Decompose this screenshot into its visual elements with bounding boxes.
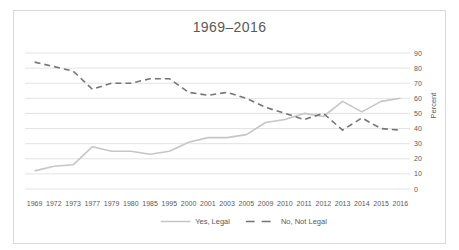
x-tick-label: 2010 xyxy=(277,200,293,207)
series-line-no-not-legal xyxy=(35,62,401,130)
gridlines xyxy=(25,53,410,189)
dashed-line-swatch-icon xyxy=(246,219,276,224)
x-tick-label: 2013 xyxy=(335,200,351,207)
x-tick-label: 1979 xyxy=(104,200,120,207)
legend: Yes, Legal No, Not Legal xyxy=(160,217,327,226)
y-tick-label: 90 xyxy=(414,50,422,57)
x-tick-label: 1995 xyxy=(162,200,178,207)
y-tick-label: 0 xyxy=(414,186,418,193)
y-tick-label: 20 xyxy=(414,155,422,162)
y-tick-label: 50 xyxy=(414,110,422,117)
y-tick-label: 40 xyxy=(414,125,422,132)
chart-container: 0102030405060708090196919721973197719791… xyxy=(13,10,446,244)
chart-title: 1969–2016 xyxy=(14,19,445,35)
y-axis-title: Percent xyxy=(429,105,438,119)
x-tick-label: 2003 xyxy=(219,200,235,207)
solid-line-swatch-icon xyxy=(160,219,190,224)
x-tick-label: 2000 xyxy=(181,200,197,207)
legend-label-no-not-legal: No, Not Legal xyxy=(281,217,327,226)
x-tick-label: 2001 xyxy=(200,200,216,207)
x-tick-label: 2011 xyxy=(297,200,312,207)
y-tick-label: 80 xyxy=(414,65,422,72)
series-line-yes-legal xyxy=(35,98,401,171)
x-tick-label: 1973 xyxy=(65,200,81,207)
y-tick-label: 30 xyxy=(414,140,422,147)
plot-area: 0102030405060708090196919721973197719791… xyxy=(14,11,445,243)
x-tick-labels: 1969197219731977197919801985199520002001… xyxy=(27,200,408,207)
y-tick-label: 60 xyxy=(414,95,422,102)
y-tick-labels: 0102030405060708090 xyxy=(414,50,422,193)
x-tick-label: 1980 xyxy=(123,200,139,207)
x-tick-label: 1985 xyxy=(142,200,158,207)
x-tick-label: 2016 xyxy=(393,200,409,207)
legend-item-no-not-legal: No, Not Legal xyxy=(246,217,327,226)
x-tick-label: 1972 xyxy=(46,200,62,207)
y-tick-label: 10 xyxy=(414,170,422,177)
x-tick-label: 1977 xyxy=(85,200,101,207)
legend-item-yes-legal: Yes, Legal xyxy=(160,217,230,226)
y-tick-label: 70 xyxy=(414,80,422,87)
x-tick-label: 2005 xyxy=(239,200,255,207)
legend-label-yes-legal: Yes, Legal xyxy=(195,217,230,226)
x-tick-label: 2009 xyxy=(258,200,274,207)
x-tick-label: 2012 xyxy=(316,200,332,207)
x-tick-label: 2015 xyxy=(373,200,389,207)
x-tick-label: 1969 xyxy=(27,200,43,207)
x-tick-label: 2014 xyxy=(354,200,370,207)
